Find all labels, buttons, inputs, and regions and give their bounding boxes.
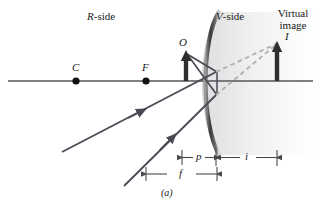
figure-caption: (a)	[161, 188, 173, 199]
label-r-side: R-side	[87, 11, 115, 23]
label-dimension-p: p	[196, 151, 202, 163]
label-focal-point-f: F	[142, 62, 149, 74]
label-v-side-rest: -side	[223, 10, 244, 22]
v-side-shading	[202, 12, 313, 155]
label-center-point-c: C	[72, 62, 79, 74]
incident-rays	[62, 72, 216, 186]
point-marker-c	[72, 77, 79, 84]
label-r-side-rest: -side	[94, 10, 115, 22]
label-r-side-italic: R	[87, 10, 94, 22]
label-object-point-o: O	[179, 37, 187, 49]
label-v-side: V-side	[216, 11, 244, 23]
label-dimension-i: i	[245, 151, 248, 163]
label-virtual-image: Virtual image	[270, 8, 316, 31]
label-image-point-i: I	[285, 31, 289, 43]
label-virtual-line1: Virtual	[270, 8, 316, 20]
optics-figure: R-side V-side Virtual image I O C F p i …	[0, 0, 321, 211]
incident-ray-1-arrow	[128, 109, 146, 118]
label-virtual-line2: image	[270, 20, 316, 32]
label-dimension-f: f	[179, 168, 182, 180]
label-v-side-italic: V	[216, 10, 223, 22]
point-marker-f	[142, 77, 149, 84]
diagram-canvas	[0, 0, 321, 211]
incident-ray-2-arrow	[160, 134, 176, 150]
